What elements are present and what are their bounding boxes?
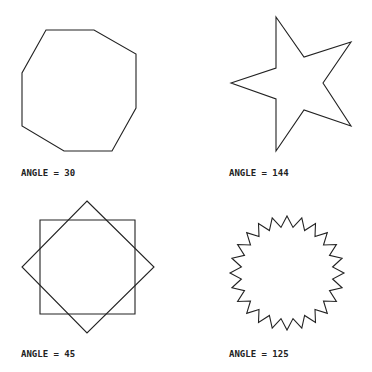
label-angle-45: ANGLE = 45 [21,349,75,359]
starburst-shape [230,216,344,330]
turtle-graphics-canvas [0,0,372,372]
star-shape [231,17,351,151]
diamond-shape [22,201,154,333]
label-angle-30: ANGLE = 30 [21,168,75,178]
octagon-shape [22,30,136,151]
label-angle-144: ANGLE = 144 [229,168,289,178]
label-angle-125: ANGLE = 125 [229,349,289,359]
